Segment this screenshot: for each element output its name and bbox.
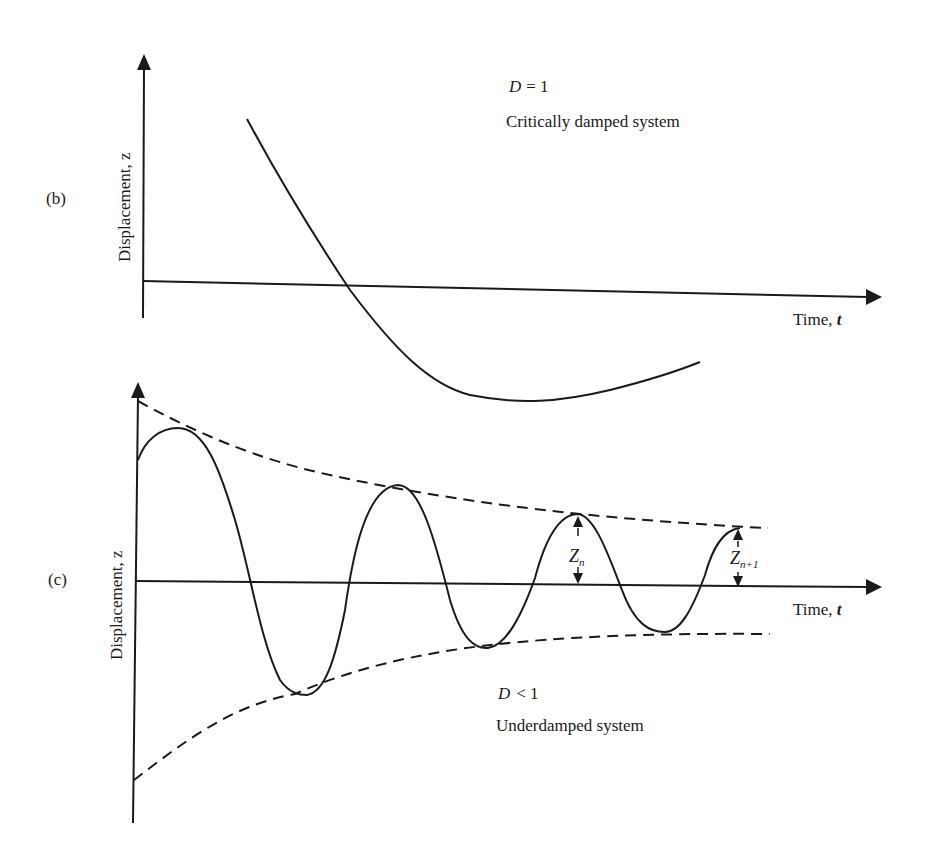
panel-c-response-curve: [138, 428, 740, 695]
panel-b-y-axis-label: Displacement, z: [115, 152, 134, 262]
panel-c-y-axis-label: Displacement, z: [107, 550, 126, 660]
panel-b-x-axis-label: Time, t: [793, 310, 843, 329]
zn-up-arrowhead-icon: [573, 516, 583, 527]
panel-c-y-axis-arrowhead-icon: [131, 382, 145, 398]
zn1-up-arrowhead-icon: [733, 529, 743, 540]
panel-b-critically-damped: [137, 54, 882, 401]
panel-b-response-curve: [247, 119, 700, 401]
panel-c-zn-label: Zn: [569, 546, 585, 568]
panel-c-condition: D< 1: [497, 684, 539, 703]
panel-b-condition: D= 1: [508, 77, 549, 96]
panel-b-description: Critically damped system: [506, 112, 680, 131]
panel-b-x-axis: [143, 281, 868, 297]
panel-c-zn1-label: Zn+1: [730, 548, 758, 570]
panel-c-x-axis-arrowhead-icon: [866, 579, 882, 595]
panel-c-lower-envelope: [134, 634, 770, 780]
panel-b-y-axis-arrowhead-icon: [137, 54, 151, 70]
panel-c-x-axis-label: Time, t: [793, 600, 843, 619]
panel-c-description: Underdamped system: [496, 716, 644, 735]
panel-b-label: (b): [46, 189, 66, 208]
damping-diagram: (b) Displacement, z Time, t D= 1 Critica…: [0, 0, 928, 855]
panel-c-label: (c): [48, 570, 67, 589]
panel-c-x-axis: [136, 581, 868, 587]
zn-down-arrowhead-icon: [573, 573, 583, 584]
panel-c-underdamped: [131, 382, 882, 823]
panel-b-x-axis-arrowhead-icon: [866, 289, 882, 305]
